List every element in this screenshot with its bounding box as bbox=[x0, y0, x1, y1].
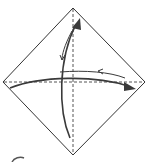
partial-mark bbox=[12, 157, 24, 162]
origami-diagram bbox=[0, 0, 150, 162]
